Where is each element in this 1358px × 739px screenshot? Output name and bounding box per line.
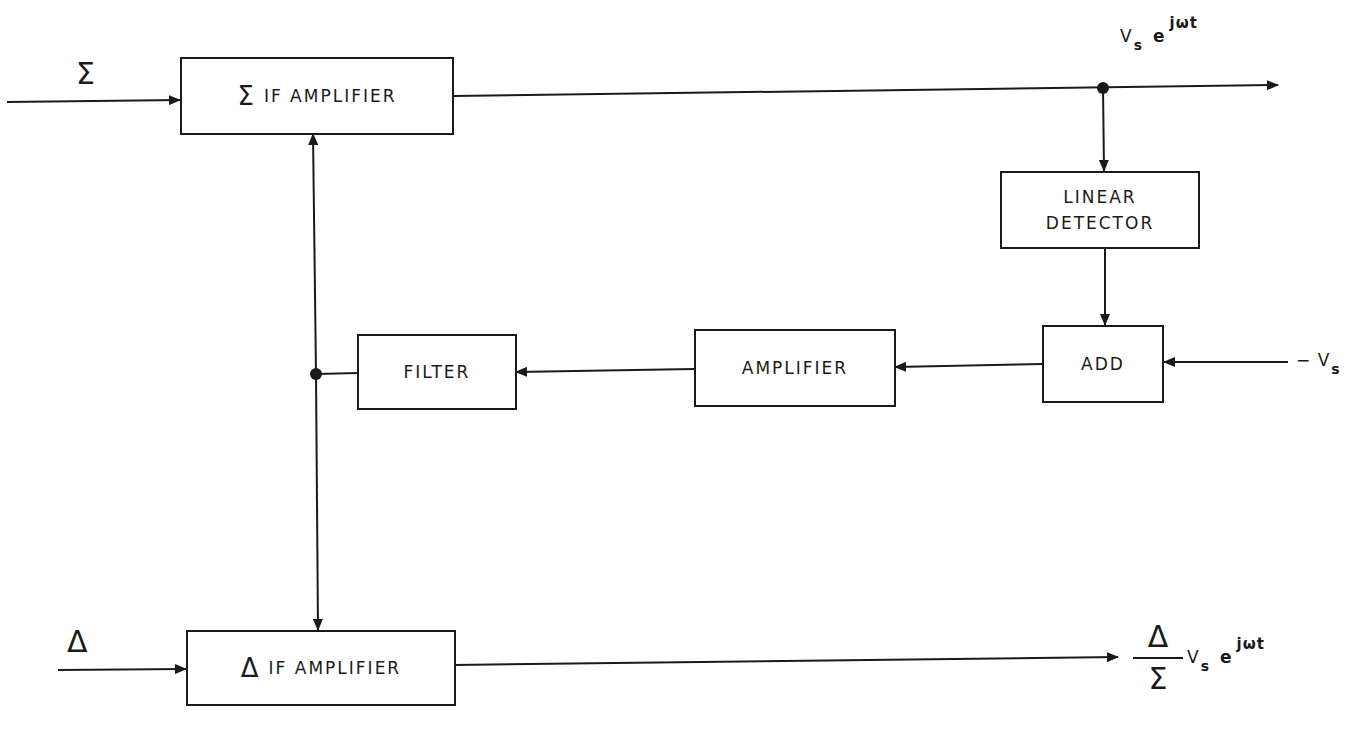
- delta-output-line: [454, 657, 1118, 665]
- sum-output-label: Vsejωt: [1120, 26, 1198, 46]
- sum-if-amplifier-label: IF AMPLIFIER: [264, 83, 397, 109]
- amplifier-block: AMPLIFIER: [694, 329, 896, 407]
- sum-if-amplifier-block: Σ IF AMPLIFIER: [180, 57, 454, 135]
- delta-if-amplifier-block: Δ IF AMPLIFIER: [186, 630, 456, 706]
- junction-gain-control: [310, 368, 322, 380]
- delta-output-label: Vsejωt: [1187, 647, 1265, 667]
- junction-sum-output: [1097, 82, 1109, 94]
- fraction-numerator: Δ: [1148, 620, 1169, 654]
- sum-input-label: Σ: [76, 56, 95, 91]
- gain-to-sum-line: [313, 134, 316, 374]
- detector-feed-line: [1103, 88, 1104, 171]
- delta-if-amplifier-label: IF AMPLIFIER: [269, 655, 402, 681]
- filter-to-junction-line: [316, 373, 358, 374]
- add-to-amplifier-line: [895, 364, 1042, 367]
- fraction-denominator: Σ: [1149, 662, 1168, 696]
- delta-symbol: Δ: [241, 655, 259, 681]
- sum-output-line: [453, 85, 1278, 96]
- amplifier-label: AMPLIFIER: [742, 355, 848, 381]
- neg-vs-label: − Vs: [1296, 350, 1341, 370]
- gain-to-delta-line: [316, 374, 318, 630]
- delta-over-sigma-fraction: Δ Σ: [1133, 620, 1183, 696]
- linear-detector-block: LINEAR DETECTOR: [1000, 171, 1200, 249]
- amplifier-to-filter-line: [516, 369, 694, 372]
- delta-input-label: Δ: [67, 624, 88, 659]
- linear-detector-label-2: DETECTOR: [1046, 210, 1154, 236]
- filter-block: FILTER: [357, 334, 517, 410]
- delta-input-line: [58, 669, 186, 670]
- add-block: ADD: [1042, 325, 1164, 403]
- sigma-symbol: Σ: [237, 83, 253, 109]
- sum-input-line: [7, 100, 180, 102]
- filter-label: FILTER: [404, 359, 471, 385]
- linear-detector-label-1: LINEAR: [1063, 184, 1136, 210]
- fraction-bar: [1133, 657, 1183, 659]
- add-label: ADD: [1081, 351, 1125, 377]
